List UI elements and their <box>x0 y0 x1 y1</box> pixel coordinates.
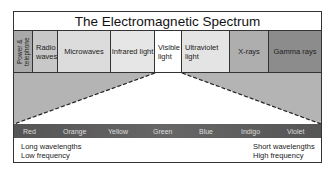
color-violet: Violet <box>287 128 304 135</box>
color-green: Green <box>153 128 172 135</box>
band-gamma-rays: Gamma rays <box>269 31 321 72</box>
visible-zoom-wedge <box>14 73 321 124</box>
spectrum-diagram: The Electromagnetic Spectrum Power & tel… <box>13 11 322 163</box>
color-indigo: Indigo <box>241 128 260 135</box>
short-wavelength-desc: Short wavelengths High frequency <box>253 142 315 160</box>
color-blue: Blue <box>199 128 213 135</box>
band-visible: Visible light <box>155 31 182 72</box>
visible-color-bar: Red Orange Yellow Green Blue Indigo Viol… <box>14 124 321 138</box>
diagram-title: The Electromagnetic Spectrum <box>14 12 321 31</box>
color-orange: Orange <box>63 128 86 135</box>
color-red: Red <box>23 128 36 135</box>
band-x-rays: X-rays <box>230 31 269 72</box>
band-microwaves: Microwaves <box>58 31 111 72</box>
long-wavelength-desc: Long wavelengths Low frequency <box>21 142 81 160</box>
spectrum-bands: Power & telephone Radio waves Microwaves… <box>14 31 321 73</box>
band-power-telephone: Power & telephone <box>14 31 33 72</box>
band-infrared: Infrared light <box>111 31 155 72</box>
band-radio-waves: Radio waves <box>33 31 58 72</box>
color-yellow: Yellow <box>108 128 128 135</box>
band-ultraviolet: Ultraviolet light <box>182 31 230 72</box>
